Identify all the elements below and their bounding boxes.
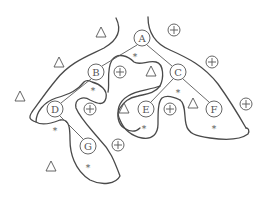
node-f: F (206, 101, 222, 117)
plus-circle-icon (164, 103, 176, 115)
plus-circle-icon (112, 139, 124, 151)
triangle-icon (15, 91, 25, 101)
plus-circle-icon (114, 66, 126, 78)
node-e-label: E (142, 104, 149, 115)
triangle-icon (96, 27, 106, 37)
region-boundary-dg (36, 81, 120, 184)
triangle-icon (188, 98, 198, 108)
node-b-label: B (92, 67, 99, 78)
node-d: D (47, 101, 63, 117)
triangle-icon (46, 161, 56, 171)
node-d-label: D (51, 104, 59, 115)
star-icon: * (142, 124, 147, 134)
star-icon: * (133, 52, 138, 62)
star-icon: * (176, 88, 181, 98)
triangle-icon (146, 66, 156, 76)
node-e: E (138, 101, 154, 117)
node-a: A (134, 30, 150, 46)
edge-a-c (147, 45, 172, 66)
plus-circle-icon (240, 98, 252, 110)
star-icon: * (212, 124, 217, 134)
node-g: G (80, 138, 96, 154)
plus-circle-icon (84, 103, 96, 115)
edge-d-g (60, 116, 83, 139)
edge-a-b (102, 45, 137, 66)
node-f-label: F (211, 104, 218, 115)
diagram-svg: A B C D E F G (0, 0, 265, 197)
plus-circle-icon (206, 56, 218, 68)
edge-b-d (61, 79, 91, 103)
edge-c-f (183, 79, 209, 102)
node-c: C (170, 64, 186, 80)
star-icon: * (91, 86, 96, 96)
node-g-label: G (84, 141, 92, 152)
star-icon: * (53, 126, 58, 136)
star-icon: * (86, 163, 91, 173)
node-c-label: C (174, 67, 182, 78)
plus-circle-icon (168, 24, 180, 36)
node-a-label: A (137, 33, 146, 44)
node-b: B (88, 64, 104, 80)
triangle-icon (54, 57, 64, 67)
diagram-canvas: A B C D E F G (0, 0, 265, 197)
